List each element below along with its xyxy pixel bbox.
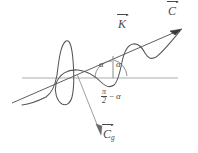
fraction-denominator: 2 [101,96,107,105]
velocity-text: C [168,4,176,18]
slanted-vector-line [12,30,180,103]
complement-angle-text: α [116,92,121,101]
pi-over-two-fraction: π 2 [101,88,107,105]
group-velocity-text: C [103,127,111,141]
fraction-numerator: π [101,88,107,96]
wavevector-text: K [118,17,126,31]
velocity-label: C [168,5,176,17]
slanted-vector-arrowhead [170,29,182,35]
vector-arrow-icon [167,1,178,2]
group-velocity-label: Cg [103,128,115,141]
angle-label-right: α [116,60,121,69]
diagram-canvas [0,0,198,153]
group-velocity-line [77,74,100,132]
group-velocity-subscript: g [111,133,115,142]
vector-arrow-icon [102,124,113,125]
vector-arrow-icon [117,14,128,15]
wavevector-label: K [118,18,126,30]
complement-operator: − [109,92,114,101]
angle-label-left: α [99,60,104,69]
complement-angle-label: π 2 − α [101,88,121,105]
group-velocity-arrowhead [96,124,102,135]
